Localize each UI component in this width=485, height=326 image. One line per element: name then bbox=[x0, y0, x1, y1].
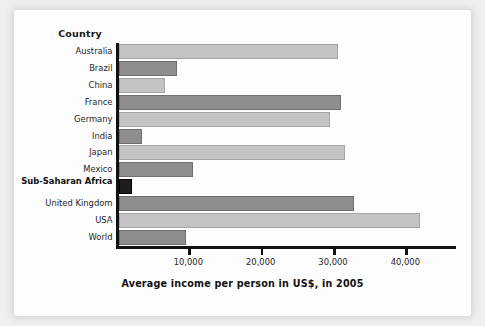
bar-label: Mexico bbox=[17, 162, 113, 177]
bar-label: Sub-Saharan Africa bbox=[17, 177, 113, 186]
bar-row: Germany bbox=[119, 112, 459, 127]
x-tick-label: 20,000 bbox=[231, 257, 291, 267]
x-tick-label: 40,000 bbox=[375, 257, 435, 267]
bar-row: France bbox=[119, 95, 459, 110]
x-tick-label: 10,000 bbox=[158, 257, 218, 267]
bar-row: Sub-Saharan Africa bbox=[119, 179, 459, 194]
bar-label: Australia bbox=[17, 44, 113, 59]
bar-label: France bbox=[17, 95, 113, 110]
bar-row: World bbox=[119, 230, 459, 245]
x-tick-label: 30,000 bbox=[303, 257, 363, 267]
bar bbox=[119, 196, 355, 211]
bar-row: India bbox=[119, 129, 459, 144]
x-tick-mark bbox=[405, 248, 408, 255]
bar bbox=[119, 162, 194, 177]
bar bbox=[119, 112, 330, 127]
bar-label: India bbox=[17, 129, 113, 144]
bar bbox=[119, 129, 143, 144]
x-axis-title: Average income per person in US$, in 200… bbox=[14, 278, 471, 289]
bar-row: Mexico bbox=[119, 162, 459, 177]
bar bbox=[119, 230, 186, 245]
bar-row: Japan bbox=[119, 145, 459, 160]
bar-label: Japan bbox=[17, 145, 113, 160]
bar-row: United Kingdom bbox=[119, 196, 459, 211]
bar-label: United Kingdom bbox=[17, 196, 113, 211]
plot-area: AustraliaBrazilChinaFranceGermanyIndiaJa… bbox=[116, 43, 456, 246]
bar bbox=[119, 95, 341, 110]
bar bbox=[119, 61, 177, 76]
bar-row: Brazil bbox=[119, 61, 459, 76]
bar-label: World bbox=[17, 230, 113, 245]
bar-label: Brazil bbox=[17, 61, 113, 76]
bar-label: Germany bbox=[17, 112, 113, 127]
bar bbox=[119, 145, 345, 160]
country-column-header: Country bbox=[14, 28, 102, 39]
bar-row: China bbox=[119, 78, 459, 93]
bar bbox=[119, 179, 132, 194]
bar bbox=[119, 44, 338, 59]
bar-row: Australia bbox=[119, 44, 459, 59]
bar bbox=[119, 78, 165, 93]
x-tick-mark bbox=[261, 248, 264, 255]
x-tick-mark bbox=[333, 248, 336, 255]
chart-figure: Country AustraliaBrazilChinaFranceGerman… bbox=[14, 10, 471, 316]
x-tick-mark bbox=[188, 248, 191, 255]
bar bbox=[119, 213, 421, 228]
bar-row: USA bbox=[119, 213, 459, 228]
bar-label: USA bbox=[17, 213, 113, 228]
bar-label: China bbox=[17, 78, 113, 93]
